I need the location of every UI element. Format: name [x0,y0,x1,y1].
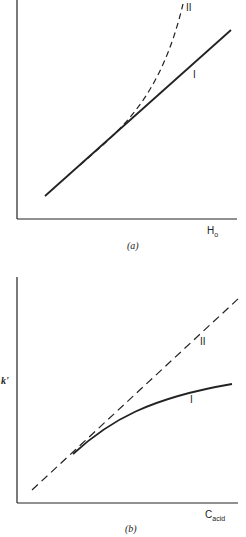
panel-b: II I k' Cacid (b) [1,277,239,535]
panel-a: II I Ho (a) [17,0,237,252]
panel-a-x-label-sub: o [214,231,218,238]
panel-b-x-label-sub: acid [212,515,225,522]
panel-a-label-I: I [193,69,196,80]
figure: II I Ho (a) II I k' Cacid (b) [0,0,246,537]
panel-b-curve-I [73,384,232,454]
panel-b-label-II: II [200,336,206,347]
panel-b-x-label: Cacid [205,509,225,522]
panel-b-caption: (b) [125,523,137,535]
panel-b-label-I: I [190,394,193,405]
panel-a-curve-I [45,30,231,196]
panel-a-curve-II [80,4,183,165]
panel-a-x-label: Ho [207,225,218,238]
panel-b-y-label: k' [1,375,9,386]
panel-a-label-II: II [186,2,192,13]
panel-a-caption: (a) [127,240,139,252]
panel-b-curve-II [32,298,239,490]
